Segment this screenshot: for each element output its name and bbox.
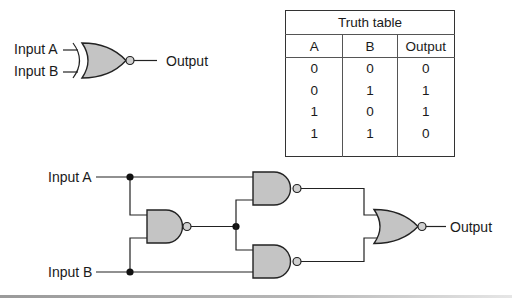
branch-b-to-nand1 [130, 238, 147, 272]
nand-3-output-wire [301, 238, 378, 262]
pad-cell [397, 144, 454, 157]
cell-output: 1 [397, 101, 454, 123]
table-row: 0 1 1 [286, 80, 455, 102]
cell-output: 0 [397, 123, 454, 145]
nand-2-bubble [293, 185, 301, 193]
xnor-output-label: Output [166, 53, 208, 69]
junction-dot-b [126, 268, 133, 275]
xnor-input-a-label: Input A [14, 41, 58, 57]
xnor-extra-curve [73, 43, 80, 78]
cell-output: 1 [397, 80, 454, 102]
circuit-input-b-label: Input B [48, 264, 92, 280]
nand-gate-3 [253, 245, 291, 278]
table-padding-row [286, 144, 455, 157]
circuit-input-a-label: Input A [48, 169, 92, 185]
cell-b: 1 [343, 80, 397, 102]
cell-b: 0 [343, 101, 397, 123]
truth-table-header-a: A [286, 35, 343, 58]
nor-bubble [418, 223, 426, 231]
nand-gate-2 [253, 172, 291, 205]
mid-to-nand3-wire [236, 227, 253, 251]
nand-gate-1 [147, 210, 183, 243]
cell-a: 1 [286, 101, 343, 123]
junction-dot-a [126, 173, 133, 180]
nand-3-bubble [293, 258, 301, 266]
cell-output: 0 [397, 58, 454, 80]
xnor-input-b-label: Input B [14, 63, 58, 79]
cell-b: 1 [343, 123, 397, 145]
truth-table-title: Truth table [286, 11, 455, 35]
xnor-bubble [126, 57, 134, 65]
table-row: 1 1 0 [286, 123, 455, 145]
cell-a: 0 [286, 58, 343, 80]
cell-a: 1 [286, 123, 343, 145]
truth-table-header-b: B [343, 35, 397, 58]
nand-1-bubble [183, 223, 191, 231]
nor-gate [374, 210, 418, 244]
table-row: 1 0 1 [286, 101, 455, 123]
xnor-circuit: Input A Input B Output [48, 169, 492, 280]
truth-table-header-output: Output [397, 35, 454, 58]
nand-2-output-wire [301, 189, 378, 216]
xnor-gate-body [82, 43, 126, 78]
xnor-symbol: Input A Input B Output [14, 41, 208, 79]
circuit-output-label: Output [450, 219, 492, 235]
branch-a-to-nand1 [130, 177, 147, 215]
cell-b: 0 [343, 58, 397, 80]
cell-a: 0 [286, 80, 343, 102]
mid-to-nand2-wire [236, 200, 253, 227]
truth-table: Truth table A B Output 0 0 0 0 1 1 1 0 1… [285, 10, 455, 157]
pad-cell [286, 144, 343, 157]
pad-cell [343, 144, 397, 157]
table-row: 0 0 0 [286, 58, 455, 80]
